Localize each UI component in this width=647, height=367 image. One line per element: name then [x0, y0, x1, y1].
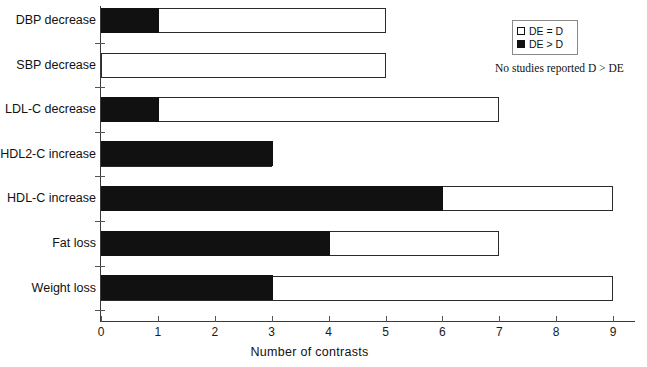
x-tick-label-2: 2 [200, 325, 230, 339]
y-tick-3 [95, 132, 105, 133]
x-tick-label-6: 6 [427, 325, 457, 339]
y-axis-label-ldl-c-decrease: LDL-C decrease [0, 102, 96, 116]
chart-annotation-note: No studies reported D > DE [495, 62, 624, 74]
y-tick-6 [95, 266, 105, 267]
x-tick-1 [158, 316, 159, 322]
y-tick-2 [95, 87, 105, 88]
bar-segment-de-greater-d [101, 141, 273, 166]
bar-weight-loss [101, 276, 613, 301]
chart-figure: 0123456789 DBP decreaseSBP decreaseLDL-C… [0, 0, 647, 367]
x-tick-7 [499, 316, 500, 322]
y-axis-label-weight-loss: Weight loss [0, 281, 96, 295]
y-axis-label-fat-loss: Fat loss [0, 236, 96, 250]
y-tick-4 [95, 176, 105, 177]
legend-swatch-empty [517, 27, 525, 35]
y-axis-label-sbp-decrease: SBP decrease [0, 58, 96, 72]
x-tick-label-8: 8 [541, 325, 571, 339]
bar-sbp-decrease [101, 53, 386, 78]
x-axis-line [100, 321, 635, 322]
x-tick-8 [556, 316, 557, 322]
x-tick-9 [613, 316, 614, 322]
x-tick-label-0: 0 [86, 325, 116, 339]
legend: DE = D DE > D [512, 20, 578, 55]
y-tick-7 [95, 310, 105, 311]
bar-fat-loss [101, 231, 499, 256]
x-axis-title-text: Number of contrasts [250, 345, 368, 359]
bar-segment-de-greater-d [101, 231, 330, 256]
legend-item-de-equals-d: DE = D [517, 25, 573, 37]
x-tick-4 [329, 316, 330, 322]
bar-segment-de-greater-d [101, 186, 444, 211]
y-tick-5 [95, 221, 105, 222]
x-tick-2 [215, 316, 216, 322]
bar-segment-de-greater-d [101, 275, 273, 300]
x-tick-label-4: 4 [314, 325, 344, 339]
x-tick-label-5: 5 [371, 325, 401, 339]
x-tick-label-1: 1 [143, 325, 173, 339]
bar-segment-de-greater-d [101, 97, 159, 122]
legend-item-de-greater-d: DE > D [517, 38, 573, 50]
bar-dbp-decrease [101, 8, 386, 33]
legend-label-de-greater-d: DE > D [529, 38, 563, 50]
x-tick-label-9: 9 [598, 325, 628, 339]
bar-segment-de-greater-d [101, 8, 159, 33]
y-axis-label-dbp-decrease: DBP decrease [0, 13, 96, 27]
legend-swatch-filled [517, 40, 525, 48]
x-tick-5 [386, 316, 387, 322]
bar-hdl-c-increase [101, 186, 613, 211]
bar-hdl2-c-increase [101, 142, 272, 167]
x-tick-label-3: 3 [257, 325, 287, 339]
y-axis-label-hdl-c-increase: HDL-C increase [0, 191, 96, 205]
y-tick-1 [95, 43, 105, 44]
x-tick-3 [272, 316, 273, 322]
bar-ldl-c-decrease [101, 97, 499, 122]
x-axis-title: Number of contrasts [0, 345, 647, 359]
y-axis-label-hdl2-c-increase: HDL2-C increase [0, 147, 96, 161]
x-tick-0 [101, 316, 102, 322]
x-tick-6 [442, 316, 443, 322]
x-tick-label-7: 7 [484, 325, 514, 339]
legend-label-de-equals-d: DE = D [529, 25, 563, 37]
